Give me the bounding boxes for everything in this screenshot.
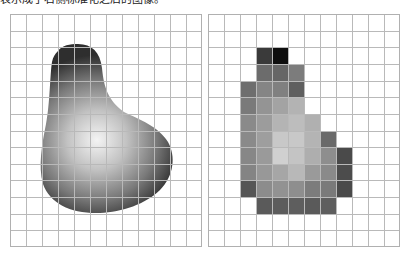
pixel-cell bbox=[256, 197, 273, 215]
pixel-cell bbox=[304, 164, 321, 182]
pixel-cell bbox=[240, 147, 257, 165]
pixel-cell bbox=[304, 114, 321, 132]
pixel-cell bbox=[256, 64, 273, 82]
pixelated-shape-figure bbox=[208, 14, 400, 247]
pixel-cell bbox=[240, 180, 257, 198]
pixel-cell bbox=[288, 97, 305, 115]
pixel-cell bbox=[256, 97, 273, 115]
pixel-cell bbox=[304, 147, 321, 165]
pixel-cell bbox=[272, 180, 289, 198]
pixel-cell bbox=[272, 131, 289, 149]
pixel-cell bbox=[320, 147, 337, 165]
pixel-cell bbox=[320, 197, 337, 215]
pixel-cell bbox=[240, 114, 257, 132]
pixel-cell bbox=[336, 180, 353, 198]
pixel-cell bbox=[272, 47, 289, 65]
pixel-cell bbox=[288, 114, 305, 132]
pixel-cell bbox=[272, 81, 289, 99]
continuous-shape-panel bbox=[10, 14, 202, 247]
pixel-cell bbox=[272, 147, 289, 165]
pixel-cell bbox=[288, 64, 305, 82]
caption-text: 表示成了右侧标准化之后的图像。 bbox=[0, 0, 414, 6]
pixel-cell bbox=[336, 164, 353, 182]
pixel-cell bbox=[256, 47, 273, 65]
pixel-cell bbox=[288, 81, 305, 99]
pixel-cell bbox=[288, 180, 305, 198]
pixel-cell bbox=[256, 164, 273, 182]
pixel-cell bbox=[272, 114, 289, 132]
pixel-cell bbox=[304, 197, 321, 215]
continuous-shape-figure bbox=[10, 14, 202, 247]
pixel-cell bbox=[288, 147, 305, 165]
pixel-cell bbox=[240, 131, 257, 149]
pixel-cell bbox=[256, 114, 273, 132]
pixel-cell bbox=[256, 81, 273, 99]
pixel-cell bbox=[288, 164, 305, 182]
pixel-cell bbox=[240, 97, 257, 115]
pixel-cell bbox=[272, 197, 289, 215]
grid-lines bbox=[10, 14, 202, 247]
pixel-cell bbox=[256, 131, 273, 149]
pixel-cell bbox=[272, 97, 289, 115]
pixel-cell bbox=[288, 197, 305, 215]
pixel-cell bbox=[288, 131, 305, 149]
pixel-cell bbox=[272, 64, 289, 82]
pixel-cell bbox=[256, 180, 273, 198]
pixelated-shape-panel bbox=[208, 14, 400, 247]
grid-lines bbox=[208, 14, 400, 247]
pixel-cell bbox=[272, 164, 289, 182]
pixel-cell bbox=[256, 147, 273, 165]
pixel-cell bbox=[304, 131, 321, 149]
pixel-cell bbox=[304, 180, 321, 198]
pixel-cell bbox=[336, 147, 353, 165]
pixel-cell bbox=[320, 131, 337, 149]
pixel-cell bbox=[320, 164, 337, 182]
pixel-cell bbox=[240, 81, 257, 99]
pixel-cell bbox=[240, 164, 257, 182]
pixel-cell bbox=[320, 180, 337, 198]
